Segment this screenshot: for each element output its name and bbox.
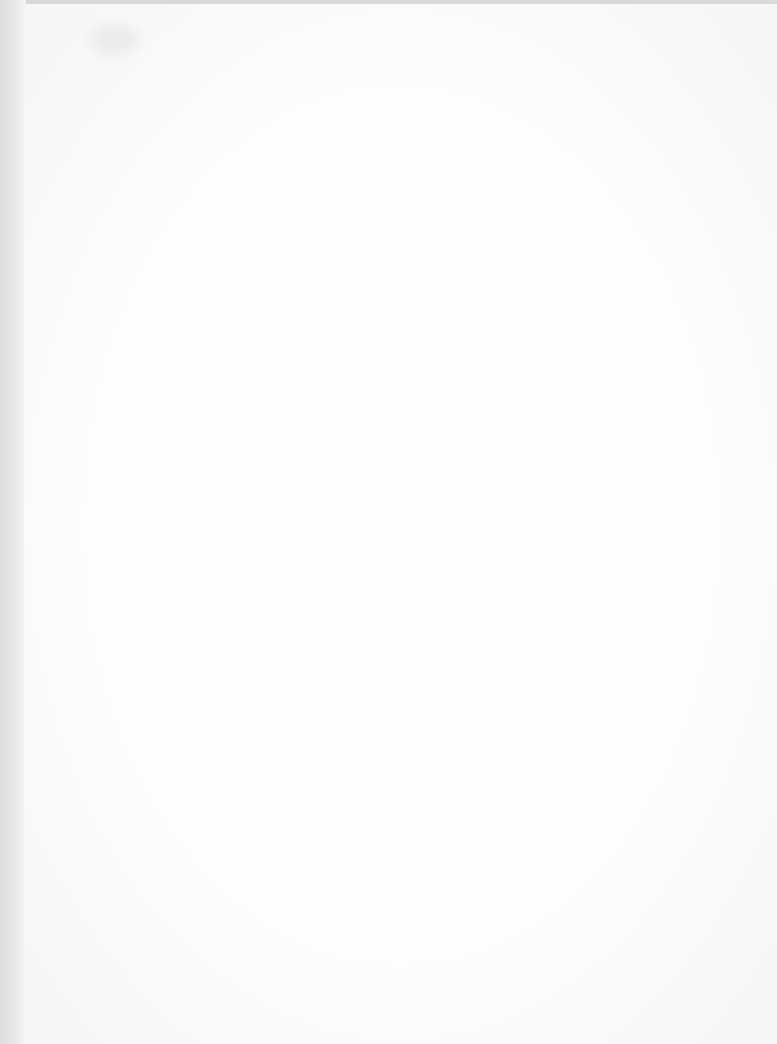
scan-smudge bbox=[90, 25, 140, 55]
scan-left-margin-shadow bbox=[0, 0, 26, 1044]
blank-paper bbox=[24, 4, 777, 1044]
scanned-page bbox=[0, 0, 777, 1044]
